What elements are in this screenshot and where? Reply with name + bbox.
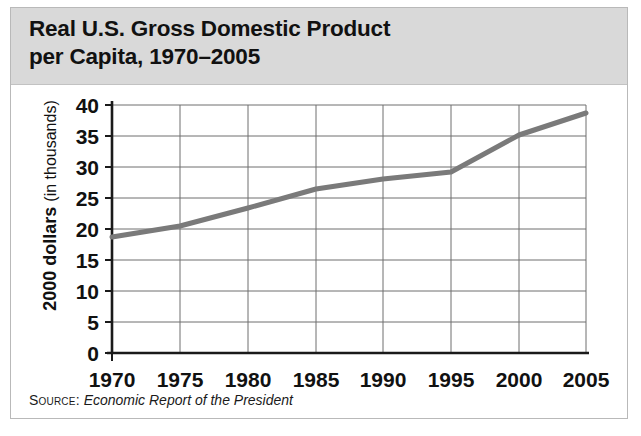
ytick-label-15: 15: [76, 249, 100, 272]
xtick-label-1980: 1980: [225, 368, 272, 391]
source-kicker: Source:: [29, 392, 80, 408]
xtick-label-1990: 1990: [360, 368, 407, 391]
source-note: Source: Economic Report of the President: [29, 392, 293, 408]
plot-area: 2000 dollars (in thousands): [11, 85, 627, 418]
ytick-label-0: 0: [87, 342, 99, 365]
xtick-label-2000: 2000: [496, 368, 543, 391]
xtick-label-1995: 1995: [428, 368, 475, 391]
x-axis-tick-labels: 1970 1975 1980 1985 1990 1995 2000 2005: [89, 368, 610, 391]
chart-figure: Real U.S. Gross Domestic Product per Cap…: [10, 7, 628, 419]
ytick-label-5: 5: [87, 311, 99, 334]
xtick-label-2005: 2005: [563, 368, 610, 391]
series-line-real-gdp-per-capita: [112, 113, 586, 237]
xtick-label-1975: 1975: [157, 368, 204, 391]
ytick-label-10: 10: [76, 280, 99, 303]
chart-title-band: Real U.S. Gross Domestic Product per Cap…: [11, 8, 627, 85]
page-title: Real U.S. Gross Domestic Product per Cap…: [29, 15, 390, 71]
source-text: Economic Report of the President: [84, 392, 293, 408]
xtick-label-1970: 1970: [89, 368, 136, 391]
ytick-label-40: 40: [76, 94, 99, 117]
ytick-label-25: 25: [76, 187, 100, 210]
ytick-label-20: 20: [76, 218, 99, 241]
ytick-label-30: 30: [76, 156, 99, 179]
line-chart: 40 35 30 25 20 15 10 5 0 1970 1975 1980 …: [11, 85, 629, 420]
ytick-label-35: 35: [76, 125, 100, 148]
y-axis-tick-labels: 40 35 30 25 20 15 10 5 0: [76, 94, 100, 365]
xtick-label-1985: 1985: [293, 368, 340, 391]
